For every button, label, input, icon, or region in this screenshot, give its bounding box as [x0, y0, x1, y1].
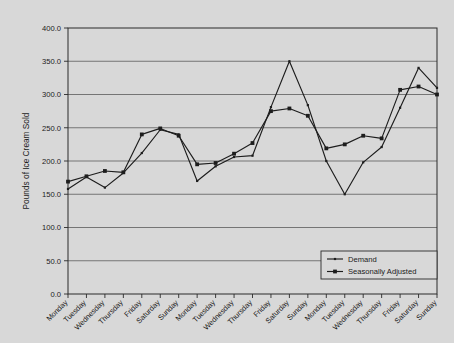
- data-point-marker: [288, 60, 290, 62]
- data-point-marker: [232, 152, 236, 156]
- data-point-marker: [177, 134, 181, 138]
- y-axis-tick-label: 100.0: [42, 223, 61, 232]
- data-point-marker: [140, 133, 144, 137]
- data-point-marker: [103, 169, 107, 173]
- data-point-marker: [435, 93, 439, 97]
- y-axis-tick-label: 350.0: [42, 57, 61, 66]
- y-axis-tick-label: 50.0: [46, 257, 61, 266]
- data-point-marker: [67, 188, 69, 190]
- data-point-marker: [215, 165, 217, 167]
- data-point-marker: [85, 174, 89, 178]
- y-axis-tick-label: 300.0: [42, 90, 61, 99]
- data-point-marker: [380, 136, 384, 140]
- y-axis-title: Pounds of Ice Cream Sold: [21, 112, 31, 209]
- data-point-marker: [141, 152, 143, 154]
- data-point-marker: [251, 141, 255, 145]
- data-point-marker: [381, 146, 383, 148]
- y-axis-tick-label: 150.0: [42, 190, 61, 199]
- chart-legend: DemandSeasonally Adjusted: [321, 251, 437, 279]
- data-point-marker: [270, 106, 272, 108]
- data-point-marker: [417, 67, 419, 69]
- chart-canvas: 0.050.0100.0150.0200.0250.0300.0350.0400…: [0, 0, 454, 343]
- data-point-marker: [307, 104, 309, 106]
- legend-marker: [333, 270, 337, 274]
- data-point-marker: [195, 162, 199, 166]
- legend-label: Seasonally Adjusted: [348, 267, 416, 276]
- data-point-marker: [269, 109, 273, 113]
- data-point-marker: [214, 161, 218, 165]
- data-point-marker: [399, 107, 401, 109]
- data-point-marker: [325, 160, 327, 162]
- data-point-marker: [436, 87, 438, 89]
- legend-label: Demand: [348, 255, 377, 264]
- data-point-marker: [343, 142, 347, 146]
- data-point-marker: [362, 161, 364, 163]
- data-point-marker: [417, 85, 421, 89]
- data-point-marker: [344, 193, 346, 195]
- ice-cream-demand-chart: 0.050.0100.0150.0200.0250.0300.0350.0400…: [0, 0, 454, 343]
- y-axis-tick-label: 250.0: [42, 124, 61, 133]
- data-point-marker: [361, 134, 365, 138]
- y-axis-tick-label: 400.0: [42, 24, 61, 33]
- data-point-marker: [158, 127, 162, 131]
- y-axis-tick-label: 200.0: [42, 157, 61, 166]
- x-axis-ticks-group: [68, 294, 437, 298]
- data-point-marker: [196, 180, 198, 182]
- legend-marker: [334, 258, 336, 260]
- data-point-marker: [233, 156, 235, 158]
- data-point-marker: [398, 88, 402, 92]
- y-axis-tick-label: 0.0: [50, 290, 61, 299]
- data-point-marker: [251, 155, 253, 157]
- data-point-marker: [324, 146, 328, 150]
- data-point-marker: [104, 187, 106, 189]
- data-point-marker: [66, 180, 70, 184]
- data-point-marker: [306, 114, 310, 118]
- data-point-marker: [288, 107, 292, 111]
- data-point-marker: [121, 170, 125, 174]
